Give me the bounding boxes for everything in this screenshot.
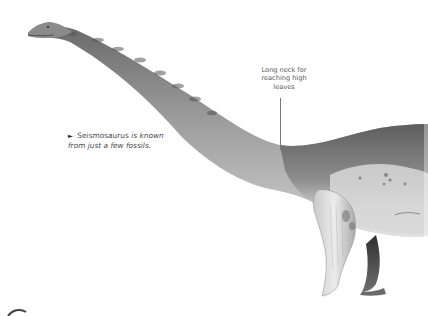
sauropod-dinosaur-icon [0,0,428,316]
caption-text-line-2: from just a few fossils. [68,141,218,151]
annotation-line-2: reaching high [252,74,316,82]
annotation-line-3: leaves [252,83,316,91]
caption-arrow-icon: ► [68,132,73,140]
annotation-line-1: Long neck for [252,66,316,74]
caption: ► Seismosaurus is known from just a few … [68,131,218,152]
annotation-label: Long neck for reaching high leaves [252,66,316,91]
annotation-leader-line [280,98,281,150]
caption-text-line-1: is known [131,131,163,140]
book-page: Long neck for reaching high leaves ► Sei… [0,0,428,316]
caption-species-name: Seismosaurus [77,131,129,140]
